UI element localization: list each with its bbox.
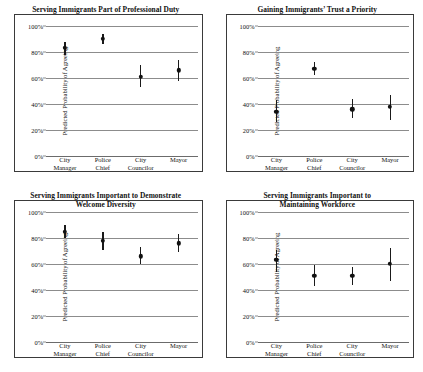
y-tick-label: 60% bbox=[31, 75, 43, 82]
y-tick-mark bbox=[255, 78, 258, 79]
gridline-40% bbox=[46, 104, 198, 105]
y-tick-mark bbox=[255, 290, 258, 291]
y-tick-label: 20% bbox=[31, 127, 43, 134]
y-tick-label: 20% bbox=[243, 313, 255, 320]
x-tick-label: Mayor bbox=[170, 342, 187, 350]
y-tick-mark bbox=[43, 104, 46, 105]
y-tick-mark bbox=[255, 212, 258, 213]
figure-multi-panel-chart: Serving Immigrants Part of Professional … bbox=[0, 0, 423, 372]
data-point-marker bbox=[138, 254, 142, 258]
y-tick-label: 80% bbox=[31, 235, 43, 242]
y-tick-mark bbox=[43, 264, 46, 265]
gridline-20% bbox=[258, 130, 410, 131]
panel-title-line1: Serving Immigrants Important to bbox=[263, 191, 371, 200]
gridline-60% bbox=[46, 264, 198, 265]
y-tick-mark bbox=[255, 316, 258, 317]
plot-area: 0%20%40%60%80%100% bbox=[46, 26, 198, 156]
panel-maintaining-workforce: Serving Immigrants Important to Maintain… bbox=[212, 186, 423, 372]
y-tick-label: 60% bbox=[243, 75, 255, 82]
panel-welcome-diversity: Serving Immigrants Important to Demonstr… bbox=[0, 186, 212, 372]
y-axis-label-wrap: Predicted Probability of Agreeing bbox=[14, 212, 28, 342]
data-point-marker bbox=[176, 68, 180, 72]
x-tick-label: CityCouncilor bbox=[339, 342, 365, 358]
y-tick-mark bbox=[43, 238, 46, 239]
plot-area: 0%20%40%60%80%100% bbox=[258, 212, 410, 342]
panel-title: Serving Immigrants Part of Professional … bbox=[0, 5, 212, 14]
gridline-40% bbox=[46, 290, 198, 291]
y-tick-label: 100% bbox=[28, 23, 43, 30]
x-tick-label: Mayor bbox=[170, 156, 187, 164]
y-tick-label: 20% bbox=[243, 127, 255, 134]
gridline-40% bbox=[258, 104, 410, 105]
data-point-marker bbox=[350, 273, 354, 277]
data-point-marker bbox=[312, 67, 316, 71]
y-tick-label: 80% bbox=[243, 235, 255, 242]
y-tick-label: 40% bbox=[243, 101, 255, 108]
gridline-80% bbox=[258, 238, 410, 239]
x-tick-label: CityManager bbox=[53, 156, 76, 172]
y-tick-mark bbox=[255, 104, 258, 105]
y-tick-mark bbox=[255, 238, 258, 239]
plot-area: 0%20%40%60%80%100% bbox=[258, 26, 410, 156]
x-axis-labels: CityManagerPoliceChiefCityCouncilorMayor bbox=[258, 342, 410, 366]
gridline-80% bbox=[258, 52, 410, 53]
y-tick-mark bbox=[43, 78, 46, 79]
y-tick-mark bbox=[255, 130, 258, 131]
y-tick-mark bbox=[43, 290, 46, 291]
gridline-100% bbox=[46, 212, 198, 213]
data-point-marker bbox=[388, 104, 392, 108]
y-tick-label: 80% bbox=[243, 49, 255, 56]
gridline-20% bbox=[258, 316, 410, 317]
y-tick-mark bbox=[255, 264, 258, 265]
data-point-marker bbox=[274, 258, 278, 262]
x-axis-labels: CityManagerPoliceChiefCityCouncilorMayor bbox=[46, 156, 198, 180]
x-tick-label: Mayor bbox=[381, 342, 398, 350]
gridline-20% bbox=[46, 316, 198, 317]
x-axis-labels: CityManagerPoliceChiefCityCouncilorMayor bbox=[258, 156, 410, 180]
gridline-100% bbox=[46, 26, 198, 27]
y-tick-label: 40% bbox=[31, 101, 43, 108]
y-tick-label: 60% bbox=[243, 261, 255, 268]
panel-title-line1: Serving Immigrants Important to Demonstr… bbox=[30, 191, 181, 200]
gridline-20% bbox=[46, 130, 198, 131]
y-tick-mark bbox=[43, 316, 46, 317]
y-tick-mark bbox=[43, 26, 46, 27]
x-tick-label: PoliceChief bbox=[306, 156, 322, 172]
panel-title-line2: Welcome Diversity bbox=[76, 200, 136, 209]
y-tick-label: 0% bbox=[246, 153, 255, 160]
x-tick-label: CityCouncilor bbox=[128, 342, 154, 358]
y-tick-mark bbox=[255, 26, 258, 27]
gridline-100% bbox=[258, 26, 410, 27]
x-tick-label: CityManager bbox=[53, 342, 76, 358]
y-axis-label-wrap: Predicted Probability of Agreeing bbox=[226, 26, 240, 156]
y-tick-label: 80% bbox=[31, 49, 43, 56]
data-point-marker bbox=[176, 241, 180, 245]
gridline-40% bbox=[258, 290, 410, 291]
data-point-marker bbox=[63, 229, 67, 233]
y-tick-mark bbox=[255, 52, 258, 53]
panel-title: Gaining Immigrants’ Trust a Priority bbox=[212, 5, 423, 14]
data-point-marker bbox=[350, 107, 354, 111]
y-tick-label: 20% bbox=[31, 313, 43, 320]
x-tick-label: CityCouncilor bbox=[128, 156, 154, 172]
y-tick-label: 0% bbox=[246, 339, 255, 346]
gridline-60% bbox=[258, 264, 410, 265]
y-tick-label: 0% bbox=[34, 153, 43, 160]
panel-title: Serving Immigrants Important to Maintain… bbox=[212, 191, 423, 209]
gridline-80% bbox=[46, 52, 198, 53]
y-tick-mark bbox=[43, 130, 46, 131]
data-point-marker bbox=[101, 238, 105, 242]
x-tick-label: CityManager bbox=[265, 156, 288, 172]
x-tick-label: PoliceChief bbox=[306, 342, 322, 358]
x-tick-label: Mayor bbox=[381, 156, 398, 164]
x-tick-label: CityCouncilor bbox=[339, 156, 365, 172]
y-tick-mark bbox=[43, 212, 46, 213]
data-point-marker bbox=[101, 37, 105, 41]
gridline-100% bbox=[258, 212, 410, 213]
y-tick-label: 100% bbox=[240, 23, 255, 30]
panel-title: Serving Immigrants Important to Demonstr… bbox=[0, 191, 212, 209]
x-tick-label: CityManager bbox=[265, 342, 288, 358]
x-axis-labels: CityManagerPoliceChiefCityCouncilorMayor bbox=[46, 342, 198, 366]
data-point-marker bbox=[388, 262, 392, 266]
data-point-marker bbox=[312, 273, 316, 277]
